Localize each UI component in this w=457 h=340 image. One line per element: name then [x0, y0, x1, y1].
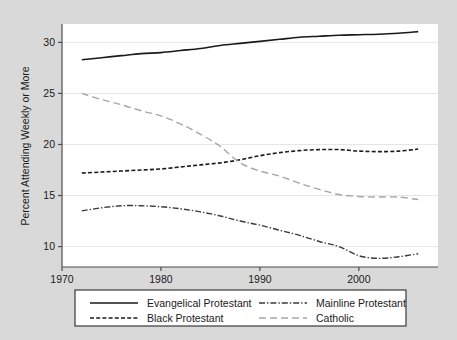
y-axis-title: Percent Attending Weekly or More [19, 66, 31, 225]
x-tick-label: 1970 [50, 273, 74, 285]
legend-label: Black Protestant [147, 312, 224, 324]
y-tick-label: 10 [43, 240, 55, 252]
legend-label: Evangelical Protestant [147, 297, 252, 309]
y-axis-ticks: 1015202530 [43, 36, 62, 252]
legend-label: Mainline Protestant [316, 297, 406, 309]
x-tick-label: 1990 [248, 273, 272, 285]
x-axis-ticks: 1970198019902000 [50, 267, 370, 285]
chart-page: 1015202530 1970198019902000 Percent Atte… [0, 0, 457, 340]
y-tick-label: 15 [43, 189, 55, 201]
y-tick-label: 25 [43, 87, 55, 99]
figure-canvas: 1015202530 1970198019902000 Percent Atte… [14, 10, 444, 328]
x-tick-label: 1980 [149, 273, 173, 285]
plot-background [62, 24, 438, 267]
y-tick-label: 30 [43, 36, 55, 48]
legend-label: Catholic [316, 312, 354, 324]
y-tick-label: 20 [43, 138, 55, 150]
chart-legend: Evangelical ProtestantMainline Protestan… [75, 290, 406, 326]
x-tick-label: 2000 [347, 273, 371, 285]
line-chart: 1015202530 1970198019902000 Percent Atte… [14, 10, 444, 328]
